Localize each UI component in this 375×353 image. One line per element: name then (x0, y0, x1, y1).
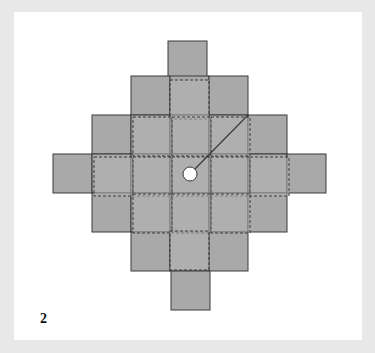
solid-square (248, 115, 287, 154)
solid-square (209, 232, 248, 271)
solid-square (53, 154, 92, 193)
solid-square (131, 232, 170, 271)
dashed-square (211, 194, 250, 233)
dashed-square (133, 117, 172, 156)
dashed-square (211, 157, 250, 196)
solid-square (168, 41, 207, 80)
dashed-square (172, 117, 211, 156)
solid-square (92, 193, 131, 232)
solid-square (131, 76, 170, 115)
dashed-square (133, 194, 172, 233)
center-circle (183, 167, 197, 181)
figure-label: 2 (40, 311, 47, 327)
dashed-square (211, 117, 250, 156)
square-diamond-diagram (0, 0, 375, 353)
solid-square (287, 154, 326, 193)
dashed-square (250, 157, 289, 196)
dashed-square (133, 157, 172, 196)
dashed-square (170, 231, 209, 270)
solid-square (209, 76, 248, 115)
solid-square (92, 115, 131, 154)
dashed-square (170, 80, 209, 119)
dashed-square (94, 157, 133, 196)
dashed-square (172, 194, 211, 233)
solid-square (171, 271, 210, 310)
solid-square (248, 193, 287, 232)
